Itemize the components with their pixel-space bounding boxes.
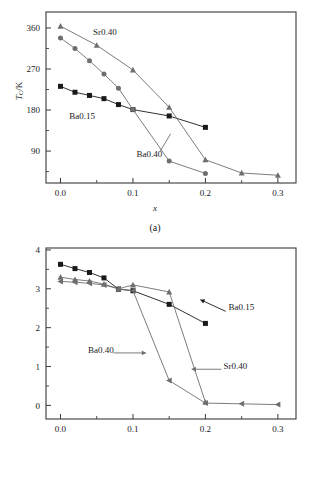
data-point-ba0.40: [87, 58, 92, 63]
series-annotation-ba0.40: Ba0.40: [88, 345, 114, 355]
data-point-ba0.40: [166, 378, 172, 384]
series-annotation-ba0.40: Ba0.40: [137, 149, 163, 159]
series-line-sr0.40: [60, 26, 277, 175]
x-tick-label: 0.1: [127, 424, 138, 434]
data-point-ba0.15: [87, 93, 92, 98]
data-point-sr0.40: [57, 23, 63, 29]
y-tick-label: 3: [36, 284, 41, 294]
data-point-ba0.40: [58, 35, 63, 40]
annotation-arrow: [113, 351, 146, 356]
y-tick-label: 180: [27, 105, 41, 115]
panel-b: 0.00.10.20.301234Ba0.15Ba0.40Sr0.40 x μo…: [0, 242, 310, 484]
data-point-sr0.40: [130, 67, 136, 73]
data-point-ba0.15: [58, 84, 63, 89]
data-point-ba0.40: [275, 402, 281, 408]
series-line-sr0.40: [60, 277, 205, 402]
data-point-ba0.40: [101, 72, 106, 77]
y-tick-label: 4: [36, 245, 41, 255]
panel-a-xaxis-title: x: [0, 203, 310, 213]
y-tick-label: 270: [27, 64, 41, 74]
y-tick-label: 1: [36, 362, 41, 372]
series-line-ba0.15: [60, 86, 205, 127]
y-tick-label: 360: [27, 23, 41, 33]
data-point-ba0.40: [130, 107, 135, 112]
x-tick-label: 0.3: [272, 188, 284, 198]
data-point-ba0.15: [203, 321, 208, 326]
panel-b-plot: 0.00.10.20.301234Ba0.15Ba0.40Sr0.40: [0, 242, 310, 484]
data-point-ba0.40: [239, 401, 245, 407]
x-tick-label: 0.2: [200, 424, 211, 434]
series-annotation-sr0.40: Sr0.40: [224, 361, 248, 371]
annotation-arrow: [200, 299, 225, 311]
data-point-sr0.40: [94, 42, 100, 48]
series-annotation-ba0.15: Ba0.15: [69, 111, 95, 121]
annotation-leader-line: [160, 134, 171, 152]
data-point-ba0.15: [58, 262, 63, 267]
panel-a-yaxis-title: TC/K: [14, 82, 24, 100]
data-point-ba0.40: [116, 86, 121, 91]
x-tick-label: 0.1: [127, 188, 138, 198]
panel-a-caption: (a): [0, 222, 310, 233]
x-tick-label: 0.0: [55, 188, 67, 198]
x-tick-label: 0.2: [200, 188, 211, 198]
series-annotation-sr0.40: Sr0.40: [93, 27, 117, 37]
data-point-ba0.15: [101, 275, 106, 280]
figure-container: 0.00.10.20.390180270360Sr0.40Ba0.15Ba0.4…: [0, 0, 310, 484]
data-point-ba0.40: [72, 46, 77, 51]
data-point-ba0.40: [203, 171, 208, 176]
series-line-ba0.15: [60, 264, 205, 323]
series-line-ba0.40: [60, 38, 205, 173]
y-tick-label: 90: [31, 146, 41, 156]
data-point-ba0.15: [72, 266, 77, 271]
data-point-ba0.15: [167, 113, 172, 118]
data-point-ba0.15: [203, 125, 208, 130]
series-line-ba0.40: [60, 281, 277, 404]
series-annotation-ba0.15: Ba0.15: [229, 302, 255, 312]
x-tick-label: 0.3: [272, 424, 284, 434]
data-point-ba0.15: [87, 270, 92, 275]
data-point-ba0.15: [101, 96, 106, 101]
y-tick-label: 0: [36, 401, 41, 411]
data-point-ba0.15: [72, 90, 77, 95]
data-point-ba0.15: [116, 102, 121, 107]
x-tick-label: 0.0: [55, 424, 67, 434]
y-tick-label: 2: [36, 323, 41, 333]
data-point-ba0.15: [167, 302, 172, 307]
data-point-sr0.40: [130, 282, 136, 288]
annotation-arrow: [192, 367, 222, 372]
data-point-ba0.40: [167, 159, 172, 164]
panel-a: 0.00.10.20.390180270360Sr0.40Ba0.15Ba0.4…: [0, 0, 310, 242]
